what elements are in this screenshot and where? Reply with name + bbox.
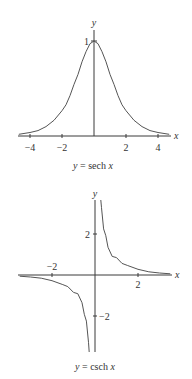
- sech-tick-label-x4: 4: [156, 142, 161, 153]
- sech-tick-label-x2: 2: [124, 142, 129, 153]
- sech-caption-x: x: [107, 160, 113, 171]
- sech-y-axis-label: y: [91, 17, 97, 28]
- csch-caption-x: x: [109, 361, 115, 372]
- csch-tick-label-y2: 2: [85, 229, 90, 240]
- sech-tick-label-xm2: −2: [57, 142, 68, 153]
- csch-curve-left: [20, 276, 90, 352]
- csch-tick-label-xm2: −2: [47, 261, 58, 272]
- sech-chart: −4 −2 2 4 1 y x y = sech x: [18, 17, 179, 171]
- csch-caption: y = csch x: [74, 361, 115, 372]
- csch-x-axis-label: x: [174, 269, 180, 280]
- csch-curve-right: [101, 200, 171, 274]
- sech-caption-mid: = sech: [78, 160, 109, 171]
- sech-tick-label-xm4: −4: [25, 142, 36, 153]
- csch-tick-label-ym2: −2: [99, 311, 110, 322]
- figure: −4 −2 2 4 1 y x y = sech x −2 2 2 −2 y x…: [0, 0, 192, 379]
- csch-caption-mid: = csch: [80, 361, 111, 372]
- sech-caption: y = sech x: [72, 160, 113, 171]
- csch-chart: −2 2 2 −2 y x y = csch x: [18, 188, 180, 372]
- sech-tick-label-y1: 1: [84, 36, 89, 47]
- csch-y-axis-label: y: [92, 188, 98, 199]
- csch-tick-label-x2: 2: [136, 279, 141, 290]
- sech-x-axis-label: x: [173, 130, 179, 141]
